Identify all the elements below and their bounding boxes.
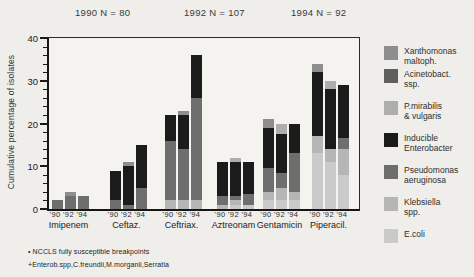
bar-group-ceftaz (110, 145, 147, 209)
bar-segment-enterobacter (243, 162, 254, 194)
bar-segment-enterobacter (289, 124, 300, 154)
bar-group-gentamicin (263, 119, 300, 209)
n-count-annotation: 1994 N = 92 (291, 7, 346, 18)
drug-name-label: Ceftaz. (108, 220, 146, 230)
y-minor-tick (43, 132, 47, 133)
bar-segment-klebsiella (338, 149, 349, 175)
stacked-bar-90 (52, 200, 63, 209)
stacked-bar-92 (123, 162, 134, 209)
bar-segment-klebsiella (217, 205, 228, 209)
bar-segment-klebsiella (325, 149, 336, 162)
bar-segment-enterobacter (191, 55, 202, 98)
stacked-bar-92 (65, 192, 76, 209)
group-label-aztreonam: '90 '92 '94Aztreonam (212, 210, 256, 230)
bar-group-aztreonam (217, 158, 254, 209)
y-major-tick (40, 80, 47, 82)
drug-name-label: Aztreonam (212, 220, 256, 230)
bar-segment-pmirabilis (325, 81, 336, 90)
y-tick-label: 10 (22, 161, 38, 172)
bar-group-ceftriax (165, 55, 202, 209)
y-minor-tick (43, 175, 47, 176)
drug-name-label: Gentamicin (257, 220, 303, 230)
y-axis-title: Cumulative percentage of isolates (6, 55, 16, 190)
bar-segment-enterobacter (123, 166, 134, 204)
legend-swatch-ecoli (384, 229, 398, 243)
bar-segment-pseudomonas (65, 196, 76, 209)
y-minor-tick (43, 64, 47, 65)
bar-segment-pseudomonas (263, 168, 274, 192)
bar-segment-enterobacter (263, 128, 274, 169)
bar-segment-klebsiella (165, 200, 176, 209)
stacked-bar-92 (230, 158, 241, 209)
group-label-ceftaz: '90 '92 '94Ceftaz. (108, 210, 146, 230)
legend-swatch-xanthomonas (384, 46, 398, 60)
bar-segment-enterobacter (276, 134, 287, 172)
legend-item-enterobacter: Inducible Enterobacter (384, 133, 474, 153)
legend-item-acinetobacter: Acinetobact. ssp. (384, 69, 474, 89)
bar-segment-klebsiella (263, 192, 274, 201)
legend-item-klebsiella: Klebsiella spp. (384, 197, 474, 217)
bar-segment-enterobacter (312, 72, 323, 136)
bar-segment-klebsiella (191, 200, 202, 209)
drug-name-label: Imipenem (49, 220, 89, 230)
legend-item-xanthomonas: Xanthomonas maltoph. (384, 46, 474, 66)
x-axis-labels: '90 '92 '94Imipenem'90 '92 '94Ceftaz.'90… (47, 210, 357, 240)
bar-segment-pseudomonas (165, 141, 176, 201)
bar-segment-ecoli (289, 200, 300, 209)
legend-label: P.mirabilis & vulgaris (404, 101, 442, 121)
legend-swatch-pmirabilis (384, 101, 398, 115)
stacked-bar-92 (276, 124, 287, 209)
drug-name-label: Piperacil. (310, 220, 348, 230)
chart-figure: 1990 N = 801992 N = 1071994 N = 92 Cumul… (0, 0, 474, 277)
bar-segment-pseudomonas (52, 200, 63, 209)
y-minor-tick (43, 47, 47, 48)
bar-segment-klebsiella (276, 188, 287, 201)
legend-item-pmirabilis: P.mirabilis & vulgaris (384, 101, 474, 121)
bar-segment-ecoli (263, 200, 274, 209)
stacked-bar-90 (165, 115, 176, 209)
legend-label: Pseudomonas aeruginosa (404, 165, 458, 185)
y-minor-tick (43, 192, 47, 193)
stacked-bar-94 (191, 55, 202, 209)
bar-segment-pseudomonas (289, 153, 300, 191)
bar-segment-enterobacter (165, 115, 176, 141)
footnote-species: +Enterob.spp,C.freundii,M.morganii,Serra… (28, 258, 169, 271)
stacked-bar-90 (312, 64, 323, 209)
y-minor-tick (43, 141, 47, 142)
bar-segment-ecoli (243, 205, 254, 209)
legend-swatch-enterobacter (384, 133, 398, 147)
legend-item-ecoli: E.coli (384, 229, 474, 243)
year-tick-labels: '90 '92 '94 (310, 210, 348, 219)
legend-swatch-acinetobacter (384, 69, 398, 83)
y-minor-tick (43, 200, 47, 201)
bar-segment-klebsiella (312, 136, 323, 153)
bar-group-piperacil (312, 64, 349, 209)
n-count-annotation: 1990 N = 80 (75, 7, 130, 18)
bar-segment-klebsiella (178, 200, 189, 209)
group-label-imipenem: '90 '92 '94Imipenem (49, 210, 89, 230)
group-label-piperacil: '90 '92 '94Piperacil. (310, 210, 348, 230)
bar-segment-xanthomonas (263, 119, 274, 128)
legend-label: Klebsiella spp. (404, 197, 440, 217)
bar-segment-enterobacter (110, 171, 121, 201)
bar-group-imipenem (52, 192, 89, 209)
bar-segment-enterobacter (325, 89, 336, 149)
year-tick-labels: '90 '92 '94 (49, 210, 89, 219)
bar-segment-klebsiella (289, 192, 300, 201)
bar-segment-ecoli (230, 205, 241, 209)
y-major-tick (40, 37, 47, 39)
y-minor-tick (43, 55, 47, 56)
bar-segment-enterobacter (178, 115, 189, 149)
y-minor-tick (43, 89, 47, 90)
stacked-bar-94 (78, 196, 89, 209)
legend-item-pseudomonas: Pseudomonas aeruginosa (384, 165, 474, 185)
stacked-bar-94 (136, 145, 147, 209)
n-count-annotation: 1992 N = 107 (184, 7, 245, 18)
bar-segment-pseudomonas (136, 188, 147, 209)
legend-swatch-klebsiella (384, 197, 398, 211)
bar-segment-pseudomonas (78, 196, 89, 209)
y-minor-tick (43, 106, 47, 107)
footnote-nccls: • NCCLS fully susceptible breakpoints (28, 245, 169, 258)
legend-swatch-pseudomonas (384, 165, 398, 179)
footnotes: • NCCLS fully susceptible breakpoints +E… (28, 245, 169, 272)
